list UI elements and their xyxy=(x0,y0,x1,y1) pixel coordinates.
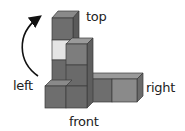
label-right: right xyxy=(146,81,175,94)
cube-view-diagram: top left right front xyxy=(0,0,185,131)
right-arm-cubes xyxy=(87,73,143,102)
cube-stack xyxy=(45,11,143,108)
rotation-arrow-icon xyxy=(22,18,38,76)
label-left: left xyxy=(13,79,33,92)
label-top: top xyxy=(86,10,106,23)
label-front: front xyxy=(69,115,98,128)
